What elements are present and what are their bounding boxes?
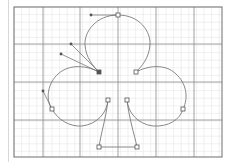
club-path[interactable] (48, 15, 186, 147)
vector-artwork[interactable] (0, 0, 229, 162)
anchor-point-top[interactable] (116, 13, 120, 17)
handle-point[interactable] (42, 90, 45, 93)
handle-point[interactable] (90, 14, 93, 17)
handle-point[interactable] (60, 53, 63, 56)
anchor-point-stem-left-bottom[interactable] (97, 145, 101, 149)
artboard-canvas[interactable] (0, 0, 229, 162)
anchor-point-right-notch[interactable] (134, 70, 138, 74)
anchor-point-right-lobe-side[interactable] (181, 107, 185, 111)
anchor-point-left-lobe-side[interactable] (50, 107, 54, 111)
anchor-point-stem-right-bottom[interactable] (135, 145, 139, 149)
anchor-point-stem-right-top[interactable] (125, 98, 129, 102)
anchor-point-left-notch[interactable] (97, 70, 101, 74)
handle-point[interactable] (70, 43, 73, 46)
anchor-point-stem-left-top[interactable] (106, 98, 110, 102)
